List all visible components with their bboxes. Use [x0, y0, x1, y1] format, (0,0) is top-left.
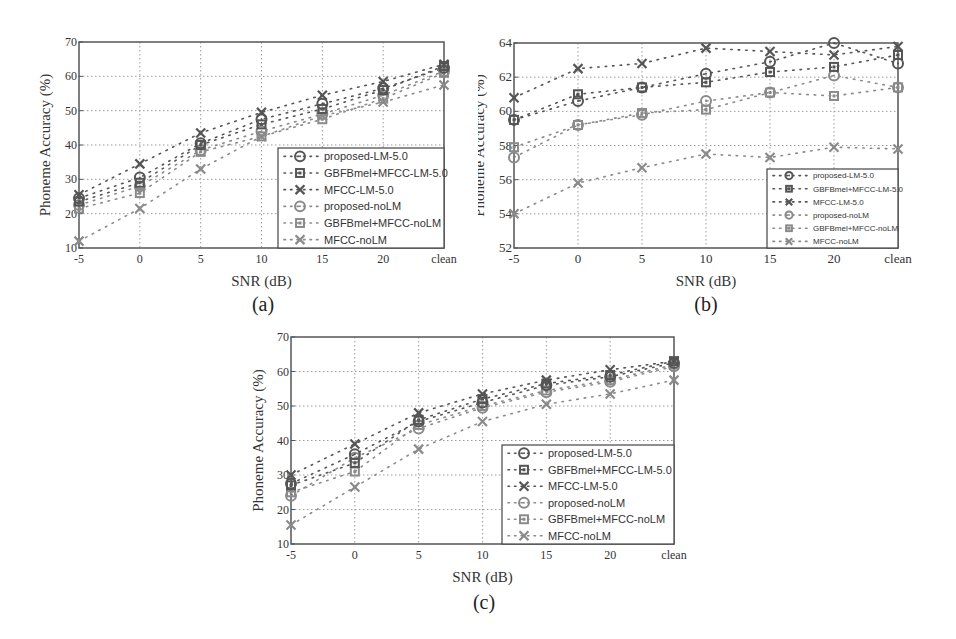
x-tick-label: 10 — [256, 252, 268, 266]
legend: proposed-LM-5.0GBFBmel+MFCC-LM-5.0MFCC-L… — [502, 445, 674, 544]
marker-x-icon — [196, 165, 205, 174]
x-axis-label: SNR (dB) — [676, 273, 736, 290]
x-tick-label: clean — [661, 548, 686, 562]
chart-b-svg: 52545658606264-505101520cleanSNR (dB)Pho… — [478, 0, 956, 320]
x-tick-label: 20 — [828, 251, 841, 266]
legend-entry-label: proposed-LM-5.0 — [324, 150, 408, 162]
legend-entry-label: MFCC-LM-5.0 — [324, 184, 394, 196]
y-axis-label: Phoneme Accuracy (%) — [250, 369, 267, 511]
legend-entry-label: proposed-LM-5.0 — [548, 447, 632, 459]
chart-a-svg: 10203040506070-505101520cleanSNR (dB)Pho… — [0, 0, 478, 320]
marker-x-icon — [135, 204, 144, 213]
caption-a: (a) — [233, 293, 293, 316]
legend-entry-label: proposed-noLM — [548, 497, 625, 509]
x-tick-label: 15 — [540, 548, 552, 562]
legend: proposed-LM-5.0GBFBmel+MFCC-LM-5.0MFCC-L… — [767, 169, 904, 248]
x-tick-label: -5 — [286, 548, 296, 562]
x-tick-label: 0 — [137, 252, 143, 266]
y-tick-label: 70 — [277, 330, 289, 344]
legend-entry-label: MFCC-LM-5.0 — [548, 480, 618, 492]
caption-c: (c) — [454, 591, 514, 614]
y-axis-label: Phoneme Accuracy (%) — [478, 74, 488, 216]
legend-marker-square-icon — [786, 225, 792, 231]
x-tick-label: 10 — [700, 251, 713, 266]
y-tick-label: 50 — [65, 104, 77, 118]
y-axis-label: Phoneme Accuracy (%) — [37, 74, 54, 216]
y-tick-label: 50 — [277, 399, 289, 413]
x-tick-label: 20 — [377, 252, 389, 266]
marker-x-icon — [606, 365, 615, 374]
marker-square-icon — [766, 68, 774, 76]
chart-a: 10203040506070-505101520cleanSNR (dB)Pho… — [0, 0, 478, 320]
x-tick-label: 10 — [477, 548, 489, 562]
chart-b: 52545658606264-505101520cleanSNR (dB)Pho… — [478, 0, 956, 320]
x-axis-label: SNR (dB) — [231, 273, 291, 290]
x-tick-label: 0 — [352, 548, 358, 562]
legend: proposed-LM-5.0GBFBmel+MFCC-LM-5.0MFCC-L… — [278, 148, 448, 248]
legend-entry-label: GBFBmel+MFCC-LM-5.0 — [548, 464, 672, 476]
x-tick-label: 15 — [764, 251, 777, 266]
legend-entry-label: proposed-noLM — [324, 200, 401, 212]
y-tick-label: 60 — [65, 69, 77, 83]
marker-x-icon — [196, 128, 205, 137]
marker-circle-icon — [765, 57, 775, 67]
y-tick-label: 62 — [499, 69, 512, 84]
y-tick-label: 30 — [65, 172, 77, 186]
x-tick-label: clean — [431, 252, 456, 266]
marker-x-icon — [257, 108, 266, 117]
legend-entry-label: GBFBmel+MFCC-noLM — [813, 224, 898, 233]
legend-entry-label: GBFBmel+MFCC-LM-5.0 — [324, 167, 448, 179]
legend-entry-label: proposed-noLM — [813, 211, 869, 220]
x-tick-label: -5 — [74, 252, 84, 266]
y-tick-label: 40 — [65, 138, 77, 152]
legend-entry-label: GBFBmel+MFCC-LM-5.0 — [813, 185, 904, 194]
x-tick-label: 15 — [316, 252, 328, 266]
x-tick-label: 5 — [198, 252, 204, 266]
legend-entry-label: MFCC-LM-5.0 — [813, 198, 864, 207]
y-tick-label: 70 — [65, 35, 77, 49]
x-tick-label: 5 — [639, 251, 646, 266]
legend-entry-label: MFCC-noLM — [548, 530, 611, 542]
marker-x-icon — [702, 150, 711, 159]
marker-circle-icon — [701, 96, 711, 106]
marker-x-icon — [638, 163, 647, 172]
legend-marker-square-icon — [786, 186, 792, 192]
y-tick-label: 56 — [499, 172, 513, 187]
x-tick-label: 0 — [575, 251, 582, 266]
legend-entry-label: GBFBmel+MFCC-noLM — [324, 217, 441, 229]
legend-entry-label: GBFBmel+MFCC-noLM — [548, 513, 665, 525]
x-tick-label: clean — [884, 251, 912, 266]
legend-entry-label: proposed-LM-5.0 — [813, 171, 874, 180]
y-tick-label: 20 — [277, 503, 289, 517]
legend-entry-label: MFCC-noLM — [324, 234, 387, 246]
y-tick-label: 64 — [499, 35, 513, 50]
marker-x-icon — [350, 439, 359, 448]
y-tick-label: 60 — [277, 365, 289, 379]
legend-entry-label: MFCC-noLM — [813, 237, 859, 246]
caption-b: (b) — [676, 293, 736, 316]
x-tick-label: 5 — [416, 548, 422, 562]
x-tick-label: -5 — [509, 251, 520, 266]
y-tick-label: 40 — [277, 434, 289, 448]
x-axis-label: SNR (dB) — [452, 569, 512, 586]
x-tick-label: 20 — [604, 548, 616, 562]
